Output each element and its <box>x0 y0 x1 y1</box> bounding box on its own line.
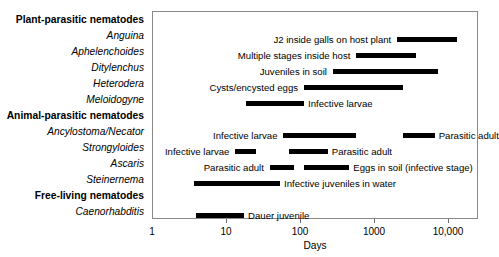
row-label-column: Plant-parasitic nematodesAnguinaAphelenc… <box>0 11 148 219</box>
bar-row: Multiple stages inside host <box>153 48 477 64</box>
duration-bar <box>356 53 416 58</box>
group-label-free-living-nematodes: Free-living nematodes <box>35 191 144 201</box>
duration-bar <box>283 133 355 138</box>
stage-label: Infective larvae <box>213 128 278 143</box>
x-axis-tick-label: 100 <box>292 226 309 237</box>
duration-bar <box>397 37 457 42</box>
stage-label: Parasitic adult <box>439 128 499 143</box>
x-axis-tick-label: 10,000 <box>433 226 464 237</box>
bar-row: Infective larvae <box>153 96 477 112</box>
duration-bar <box>246 101 304 106</box>
bars-container: J2 inside galls on host plantMultiple st… <box>153 12 477 218</box>
duration-bar <box>270 165 294 170</box>
stage-label: Infective juveniles in water <box>284 176 396 191</box>
stage-label: Juveniles in soil <box>260 64 327 79</box>
genus-label-caenorhabditis: Caenorhabditis <box>75 207 144 217</box>
genus-label-anguina: Anguina <box>107 31 144 41</box>
genus-label-ancylostoma-necator: Ancylostoma/Necator <box>47 127 144 137</box>
duration-bar <box>235 149 256 154</box>
x-axis-tick-label: 1000 <box>363 226 385 237</box>
duration-bar <box>304 85 403 90</box>
genus-label-heterodera: Heterodera <box>93 79 144 89</box>
bar-row: Dauer juvenile <box>153 208 477 224</box>
bar-row: Parasitic adultEggs in soil (infective s… <box>153 160 477 176</box>
genus-label-ditylenchus: Ditylenchus <box>91 63 144 73</box>
stage-label: Infective larvae <box>165 144 230 159</box>
group-label-plant-parasitic-nematodes: Plant-parasitic nematodes <box>16 15 144 25</box>
duration-bar <box>289 149 328 154</box>
genus-label-aphelenchoides: Aphelenchoides <box>71 47 144 57</box>
x-axis-tick-label: 10 <box>220 226 231 237</box>
duration-bar <box>196 213 244 218</box>
duration-bar <box>333 69 438 74</box>
genus-label-strongyloides: Strongyloides <box>82 143 144 153</box>
group-label-animal-parasitic-nematodes: Animal-parasitic nematodes <box>7 111 144 121</box>
genus-label-steinernema: Steinernema <box>86 175 144 185</box>
bar-row: J2 inside galls on host plant <box>153 32 477 48</box>
bar-row: Infective larvaeParasitic adult <box>153 128 477 144</box>
duration-bar <box>194 181 280 186</box>
x-axis-tick <box>226 219 227 223</box>
bar-row: Infective larvaeParasitic adult <box>153 144 477 160</box>
stage-label: J2 inside galls on host plant <box>273 32 391 47</box>
stage-label: Parasitic adult <box>204 160 264 175</box>
x-axis-tick-label: 1 <box>149 226 155 237</box>
plot-area: J2 inside galls on host plantMultiple st… <box>152 11 478 219</box>
stage-label: Infective larvae <box>308 96 373 111</box>
bar-row: Infective juveniles in water <box>153 176 477 192</box>
stage-label: Multiple stages inside host <box>238 48 351 63</box>
stage-label: Eggs in soil (infective stage) <box>353 160 472 175</box>
x-axis: 110100100010,000 <box>152 219 478 220</box>
bar-row: Juveniles in soil <box>153 64 477 80</box>
genus-label-meloidogyne: Meloidogyne <box>86 95 144 105</box>
stage-label: Cysts/encysted eggs <box>210 80 299 95</box>
bar-row: Cysts/encysted eggs <box>153 80 477 96</box>
duration-bar <box>304 165 349 170</box>
duration-bar <box>403 133 435 138</box>
x-axis-title: Days <box>152 240 478 251</box>
stage-label: Parasitic adult <box>332 144 392 159</box>
x-axis-tick <box>300 219 301 223</box>
x-axis-tick <box>448 219 449 223</box>
genus-label-ascaris: Ascaris <box>111 159 144 169</box>
x-axis-tick <box>374 219 375 223</box>
